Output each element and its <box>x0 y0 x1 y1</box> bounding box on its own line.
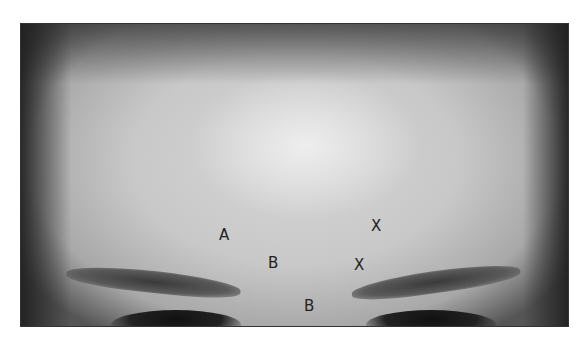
marker-x-upper: X <box>371 219 381 234</box>
left-eye <box>111 310 241 327</box>
hair-left <box>21 24 71 326</box>
right-eye <box>366 310 496 327</box>
right-eyebrow <box>350 259 521 304</box>
left-eyebrow <box>65 262 241 302</box>
marker-b-lower: B <box>304 299 314 314</box>
marker-b-upper: B <box>268 256 278 271</box>
forehead-photo <box>20 23 569 327</box>
marker-x-lower: X <box>354 258 364 273</box>
hair-right <box>523 24 568 326</box>
hairline <box>21 24 568 84</box>
marker-a: A <box>219 228 229 243</box>
